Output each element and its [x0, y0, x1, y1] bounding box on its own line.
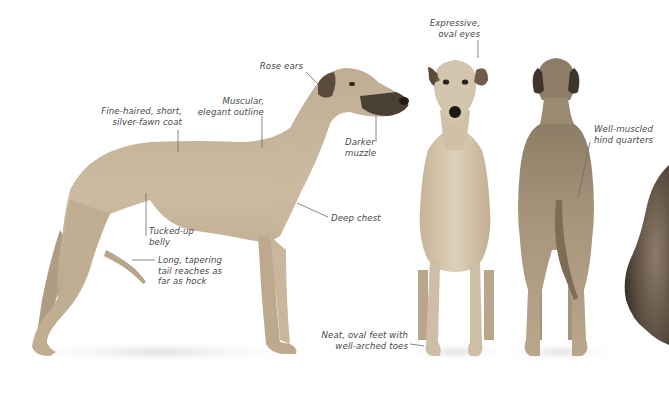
- rear-view-dog: [518, 58, 594, 356]
- label-well-muscled-hind: Well-muscled hind quarters: [594, 124, 669, 145]
- label-oval-feet: Neat, oval feet with well-arched toes: [316, 330, 408, 351]
- label-expressive-eyes: Expressive, oval eyes: [416, 18, 480, 39]
- breed-illustration: Rose ears Fine-haired, short, silver-faw…: [0, 0, 669, 393]
- label-rose-ears: Rose ears: [223, 61, 303, 72]
- front-view-dog: [418, 60, 494, 356]
- leader-line-rose-ears: [306, 72, 318, 84]
- label-long-tail: Long, tapering tail reaches as far as ho…: [158, 255, 248, 287]
- label-muscular-outline: Muscular, elegant outline: [182, 96, 264, 117]
- label-deep-chest: Deep chest: [331, 213, 391, 224]
- partial-dog-edge: [625, 165, 669, 345]
- label-darker-muzzle: Darker muzzle: [345, 137, 385, 158]
- label-fine-haired-coat: Fine-haired, short, silver-fawn coat: [75, 106, 182, 127]
- label-tucked-up-belly: Tucked-up belly: [149, 226, 209, 247]
- leader-line-deep-chest: [297, 203, 328, 217]
- rear-dog-shadow: [500, 342, 620, 362]
